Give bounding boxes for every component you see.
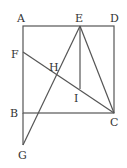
label-i: I <box>74 92 78 105</box>
label-b: B <box>10 107 18 120</box>
geometry-diagram: A E D F H I B C G <box>0 0 127 168</box>
square-abcd <box>23 26 114 113</box>
segment-fc <box>23 52 114 113</box>
label-a: A <box>16 12 26 25</box>
segment-eg <box>23 26 80 145</box>
label-e: E <box>75 12 83 25</box>
segment-ec <box>80 26 114 113</box>
label-g: G <box>18 149 27 162</box>
label-c: C <box>110 116 118 129</box>
label-f: F <box>11 48 19 61</box>
label-d: D <box>110 12 119 25</box>
label-h: H <box>49 61 59 74</box>
